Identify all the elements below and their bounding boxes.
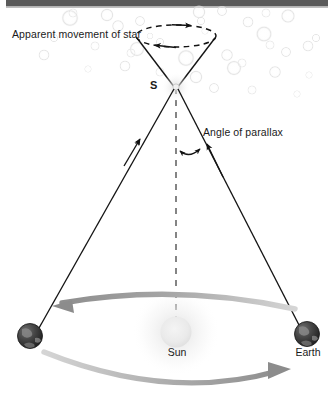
parallax-diagram: Apparent movement of star Angle of paral… (0, 0, 334, 407)
label-earth: Earth (289, 346, 327, 358)
ray-from-earth-right (178, 89, 299, 325)
earth-right (295, 322, 320, 347)
label-sun: Sun (160, 346, 194, 358)
star-S (161, 72, 191, 102)
sun (132, 288, 220, 376)
earth-left (18, 324, 43, 349)
label-angle-of-parallax: Angle of parallax (203, 126, 283, 138)
label-apparent-movement: Apparent movement of star (12, 28, 141, 40)
label-star-s: S (150, 79, 157, 91)
top-bar (6, 0, 328, 8)
angle-arc (180, 149, 200, 155)
